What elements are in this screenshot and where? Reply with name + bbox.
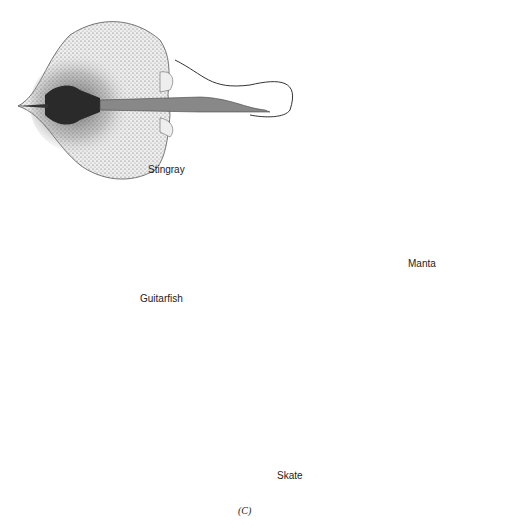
batoid-illustration — [0, 0, 526, 530]
stingray-label: Stingray — [148, 164, 185, 175]
stingray-drawing — [17, 22, 293, 179]
guitarfish-label: Guitarfish — [140, 293, 183, 304]
skate-label: Skate — [277, 470, 303, 481]
panel-caption: (C) — [238, 505, 251, 516]
manta-label: Manta — [408, 258, 436, 269]
